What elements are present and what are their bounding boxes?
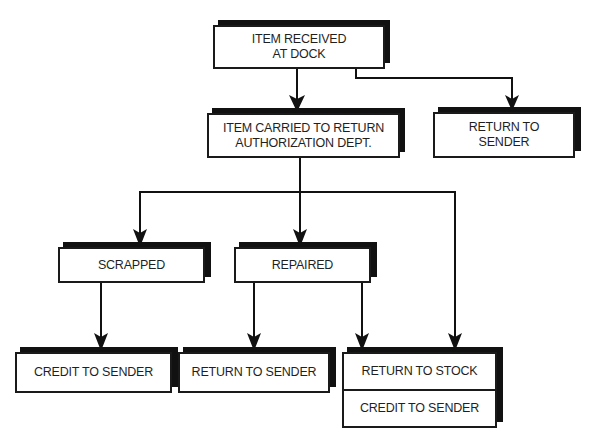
- node-cell-return-to-stock: RETURN TO STOCK: [344, 354, 495, 389]
- node-return-to-sender-top: RETURN TO SENDER: [433, 112, 575, 158]
- node-scrapped: SCRAPPED: [58, 247, 205, 283]
- node-credit-to-sender: CREDIT TO SENDER: [15, 352, 172, 393]
- node-return-to-sender-bottom: RETURN TO SENDER: [178, 352, 330, 393]
- node-label: CREDIT TO SENDER: [17, 365, 170, 380]
- node-label: SENDER: [435, 135, 573, 150]
- edge-received-return-top: [356, 68, 512, 111]
- node-label: SCRAPPED: [60, 258, 203, 273]
- node-label: ITEM CARRIED TO RETURN: [209, 121, 398, 136]
- node-return-to-stock: RETURN TO STOCK CREDIT TO SENDER: [342, 352, 497, 428]
- node-item-carried: ITEM CARRIED TO RETURN AUTHORIZATION DEP…: [207, 113, 400, 158]
- node-item-received: ITEM RECEIVED AT DOCK: [213, 25, 385, 69]
- node-label: AT DOCK: [215, 47, 383, 62]
- node-label: AUTHORIZATION DEPT.: [209, 136, 398, 151]
- node-cell-credit-to-sender: CREDIT TO SENDER: [344, 389, 495, 426]
- node-repaired: REPAIRED: [234, 247, 371, 283]
- node-label: RETURN TO SENDER: [180, 365, 328, 380]
- node-label: RETURN TO: [435, 120, 573, 135]
- node-label: ITEM RECEIVED: [215, 32, 383, 47]
- node-label: REPAIRED: [236, 258, 369, 273]
